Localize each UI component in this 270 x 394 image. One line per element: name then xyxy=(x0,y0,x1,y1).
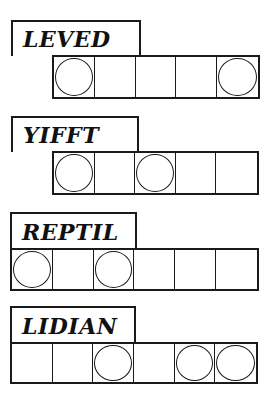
answer-cell-circled[interactable] xyxy=(12,250,53,289)
scrambled-word: LEVED xyxy=(23,28,111,50)
answer-cell-circled[interactable] xyxy=(175,344,216,382)
circle-marker-icon xyxy=(216,345,255,381)
circle-marker-icon xyxy=(176,345,214,381)
answer-cell[interactable] xyxy=(134,344,175,382)
answer-cell[interactable] xyxy=(53,344,94,382)
scrambled-word: LIDIAN xyxy=(22,315,117,337)
scrambled-word-box: LIDIAN xyxy=(10,306,136,343)
answer-cells xyxy=(52,151,259,195)
answer-cell-circled[interactable] xyxy=(217,57,258,97)
answer-cell[interactable] xyxy=(53,250,94,289)
circle-marker-icon xyxy=(13,251,51,288)
circle-marker-icon xyxy=(55,58,93,96)
answer-cell[interactable] xyxy=(176,153,217,193)
answer-cell[interactable] xyxy=(216,250,257,289)
circle-marker-icon xyxy=(95,251,133,288)
answer-cell-circled[interactable] xyxy=(93,344,134,382)
answer-cell[interactable] xyxy=(176,57,217,97)
answer-cell[interactable] xyxy=(12,344,53,382)
answer-cells xyxy=(10,342,258,384)
circle-marker-icon xyxy=(94,345,132,381)
scrambled-word-box: REPTIL xyxy=(10,212,137,249)
answer-cell[interactable] xyxy=(216,153,257,193)
answer-cell[interactable] xyxy=(134,250,175,289)
answer-cell-circled[interactable] xyxy=(94,250,135,289)
answer-cell-circled[interactable] xyxy=(54,153,95,193)
scrambled-word-box: LEVED xyxy=(11,20,141,56)
scrambled-word-box: YIFFT xyxy=(11,116,139,152)
answer-cells xyxy=(52,55,260,99)
circle-marker-icon xyxy=(136,154,174,192)
answer-cell-circled[interactable] xyxy=(135,153,176,193)
answer-cell[interactable] xyxy=(175,250,216,289)
circle-marker-icon xyxy=(218,58,257,96)
answer-cell-circled[interactable] xyxy=(215,344,256,382)
answer-cell-circled[interactable] xyxy=(54,57,95,97)
scrambled-word: REPTIL xyxy=(22,221,119,243)
answer-cells xyxy=(10,248,259,291)
scrambled-word: YIFFT xyxy=(23,124,99,146)
answer-cell[interactable] xyxy=(136,57,177,97)
answer-cell[interactable] xyxy=(95,57,136,97)
circle-marker-icon xyxy=(55,154,93,192)
jumble-puzzle: LEVED YIFFT REPTIL LIDIAN xyxy=(0,0,270,394)
answer-cell[interactable] xyxy=(95,153,136,193)
